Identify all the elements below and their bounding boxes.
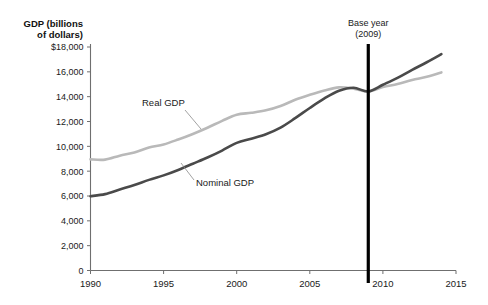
base-year-label-line2: (2009) [355, 29, 381, 39]
y-tick-label: 12,000 [56, 117, 84, 127]
y-tick-label: 14,000 [56, 92, 84, 102]
y-tick-label: 16,000 [56, 67, 84, 77]
x-tick-label: 2000 [226, 278, 247, 289]
y-axis-title-line1: GDP (billions [24, 18, 83, 29]
y-tick-label: 2,000 [61, 241, 84, 251]
y-tick-label: 10,000 [56, 142, 84, 152]
nominal-gdp-label: Nominal GDP [196, 177, 254, 188]
y-tick-label: $18,000 [51, 42, 84, 52]
real-gdp-label: Real GDP [142, 97, 185, 108]
y-tick-label: 0 [78, 266, 83, 276]
x-tick-label: 1990 [80, 278, 101, 289]
y-axis-title-line2: of dollars) [37, 29, 83, 40]
y-tick-label: 8,000 [61, 167, 84, 177]
y-tick-label: 4,000 [61, 216, 84, 226]
chart-container: GDP (billions of dollars) 02,0004,0006,0… [0, 0, 488, 305]
y-tick-label: 6,000 [61, 191, 84, 201]
x-tick-label: 1995 [153, 278, 174, 289]
gdp-line-chart: GDP (billions of dollars) 02,0004,0006,0… [0, 0, 488, 305]
x-tick-label: 2005 [299, 278, 320, 289]
x-tick-label: 2010 [372, 278, 393, 289]
x-tick-label: 2015 [445, 278, 466, 289]
base-year-label-line1: Base year [348, 18, 389, 28]
